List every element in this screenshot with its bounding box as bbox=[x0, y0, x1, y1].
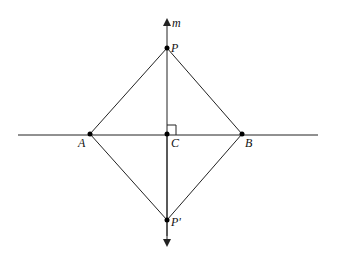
point-b bbox=[240, 132, 245, 137]
label-p: P bbox=[170, 41, 179, 55]
segment-ppa bbox=[90, 134, 167, 220]
label-m: m bbox=[172, 16, 181, 30]
point-p bbox=[165, 46, 170, 51]
point-c bbox=[165, 132, 170, 137]
label-a: A bbox=[77, 136, 86, 150]
point-a bbox=[88, 132, 93, 137]
segment-pb bbox=[167, 48, 242, 134]
segment-ap bbox=[90, 48, 167, 134]
label-pp: P' bbox=[170, 215, 181, 229]
diagram-canvas: m P A C B P' bbox=[0, 0, 337, 256]
label-c: C bbox=[171, 136, 180, 150]
label-b: B bbox=[245, 136, 253, 150]
point-pp bbox=[165, 218, 170, 223]
